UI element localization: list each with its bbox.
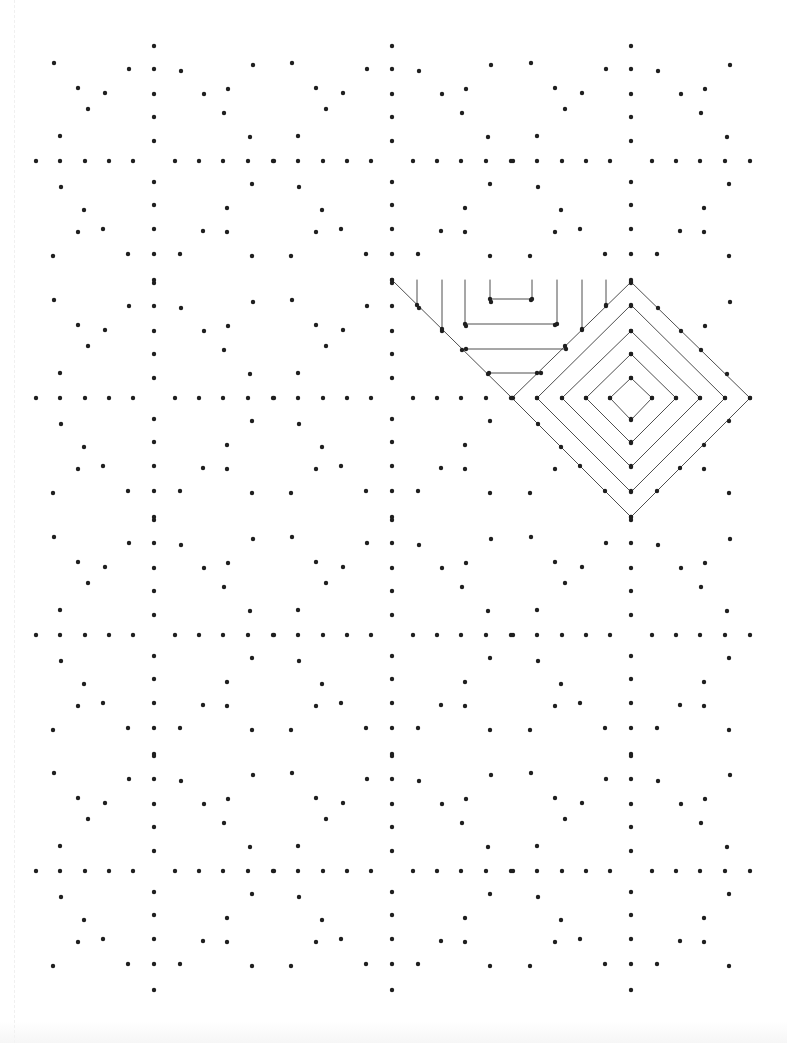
grid-dot — [225, 704, 229, 708]
drawn-line — [537, 305, 631, 398]
grid-dot — [86, 107, 90, 111]
grid-dot — [390, 726, 394, 730]
grid-dot — [390, 677, 394, 681]
grid-dot — [463, 704, 467, 708]
grid-dot — [341, 91, 345, 95]
grid-dot — [152, 825, 156, 829]
grid-dot — [314, 86, 318, 90]
grid-dot — [201, 939, 205, 943]
grid-dot — [126, 726, 130, 730]
grid-dot — [489, 63, 493, 67]
grid-dot — [727, 656, 731, 660]
grid-dot — [250, 892, 254, 896]
grid-dot — [390, 227, 394, 231]
grid-dot — [179, 306, 183, 310]
grid-dot — [290, 535, 294, 539]
grid-dot — [201, 466, 205, 470]
grid-dot — [463, 940, 467, 944]
grid-dot — [272, 869, 276, 873]
grid-dot — [390, 937, 394, 941]
grid-dot — [320, 682, 324, 686]
grid-dot — [321, 633, 325, 637]
grid-dot — [655, 252, 659, 256]
drawn-vertex-dot — [580, 327, 584, 331]
grid-dot — [488, 254, 492, 258]
grid-dot — [152, 376, 156, 380]
grid-dot — [127, 67, 131, 71]
grid-dot — [390, 613, 394, 617]
grid-dot — [486, 609, 490, 613]
grid-dot — [390, 913, 394, 917]
grid-dot — [459, 869, 463, 873]
grid-dot — [152, 281, 156, 285]
drawn-vertex-dot — [564, 347, 568, 351]
grid-dot — [390, 802, 394, 806]
example-drawing-dots — [390, 278, 752, 519]
grid-dot — [390, 115, 394, 119]
grid-dot — [702, 940, 706, 944]
grid-dot — [578, 464, 582, 468]
grid-dot — [152, 677, 156, 681]
grid-dot — [82, 445, 86, 449]
grid-dot — [535, 371, 539, 375]
grid-dot — [314, 560, 318, 564]
grid-dot — [320, 918, 324, 922]
grid-dot — [535, 608, 539, 612]
grid-dot — [324, 817, 328, 821]
drawn-vertex-dot — [487, 371, 491, 375]
grid-dot — [488, 892, 492, 896]
grid-dot — [314, 323, 318, 327]
grid-dot — [629, 754, 633, 758]
grid-dot — [629, 962, 633, 966]
grid-dot — [440, 92, 444, 96]
grid-dot — [107, 159, 111, 163]
grid-dot — [272, 396, 276, 400]
drawn-vertex-dot — [415, 303, 419, 307]
grid-dot — [679, 566, 683, 570]
drawn-line — [610, 378, 631, 398]
grid-dot — [528, 964, 532, 968]
grid-dot — [488, 656, 492, 660]
grid-dot — [369, 396, 373, 400]
grid-dot — [324, 344, 328, 348]
grid-dot — [152, 701, 156, 705]
grid-dot — [411, 869, 415, 873]
grid-dot — [629, 777, 633, 781]
grid-dot — [127, 541, 131, 545]
grid-dot — [698, 869, 702, 873]
grid-dot — [698, 159, 702, 163]
grid-dot — [250, 182, 254, 186]
grid-dot — [553, 796, 557, 800]
drawn-vertex-dot — [723, 396, 727, 400]
grid-dot — [629, 613, 633, 617]
grid-dot — [702, 443, 706, 447]
grid-dot — [339, 937, 343, 941]
grid-dot — [727, 491, 731, 495]
grid-dot — [439, 939, 443, 943]
grid-dot — [76, 560, 80, 564]
grid-dot — [629, 825, 633, 829]
grid-dot — [553, 230, 557, 234]
grid-dot — [486, 845, 490, 849]
grid-dot — [51, 254, 55, 258]
drawn-vertex-dot — [629, 515, 633, 519]
grid-dot — [225, 940, 229, 944]
grid-dot — [703, 797, 707, 801]
grid-dot — [152, 203, 156, 207]
grid-dot — [535, 869, 539, 873]
grid-dot — [51, 964, 55, 968]
grid-dot — [560, 633, 564, 637]
grid-dot — [390, 777, 394, 781]
drawn-line — [631, 378, 652, 398]
grid-dot — [728, 300, 732, 304]
grid-dot — [629, 541, 633, 545]
grid-dot — [197, 396, 201, 400]
grid-dot — [225, 230, 229, 234]
grid-dot — [152, 589, 156, 593]
grid-dot — [488, 728, 492, 732]
grid-dot — [656, 543, 660, 547]
grid-dot — [536, 659, 540, 663]
grid-dot — [460, 821, 464, 825]
grid-dot — [197, 633, 201, 637]
grid-dot — [435, 396, 439, 400]
